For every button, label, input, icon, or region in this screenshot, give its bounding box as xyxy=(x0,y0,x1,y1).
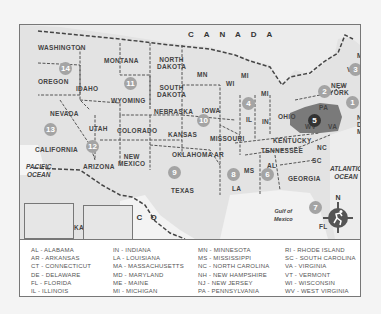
gulf-of-mexico-label: Gulf of Mexico xyxy=(274,207,293,223)
us-map: C A N A D A M E X I C O PACIFIC OCEAN AT… xyxy=(20,25,360,239)
legend-item: MD - MARYLAND xyxy=(113,271,184,279)
pacific-ocean-label: PACIFIC OCEAN xyxy=(26,163,52,179)
legend-item: AL - ALABAMA xyxy=(31,246,91,254)
region-number-badge: 2 xyxy=(318,85,331,98)
state-label: ARIZONA xyxy=(83,163,115,170)
state-label: MI xyxy=(241,72,249,79)
state-label: TEXAS xyxy=(171,187,194,194)
state-abbreviation-legend: AL - ALABAMA AR - ARKANSAS CT - CONNECTI… xyxy=(20,240,360,296)
region-number-badge: 8 xyxy=(227,168,240,181)
legend-column-3: MN - MINNESOTA MS - MISSISSIPPI NC - NOR… xyxy=(198,246,269,295)
state-label: IL xyxy=(246,116,252,123)
state-label: SOUTH DAKOTA xyxy=(157,84,186,98)
legend-column-4: RI - RHODE ISLAND SC - SOUTH CAROLINA VA… xyxy=(285,246,356,295)
legend-item: SC - SOUTH CAROLINA xyxy=(285,254,356,262)
state-label: LA xyxy=(232,185,241,192)
state-label: AR xyxy=(214,151,224,158)
region-number-badge: 5 xyxy=(308,114,321,127)
state-label: COLORADO xyxy=(117,127,157,134)
state-label: MONTANA xyxy=(104,57,139,64)
legend-item: WI - WISCONSIN xyxy=(285,279,356,287)
region-number-badge: 14 xyxy=(59,62,72,75)
legend-item: LA - LOUISIANA xyxy=(113,254,184,262)
state-label: MS xyxy=(244,167,254,174)
state-label: DE xyxy=(357,121,360,128)
legend-item: NH - NEW HAMPSHIRE xyxy=(198,271,269,279)
region-number-badge: 6 xyxy=(261,168,274,181)
region-number-badge: 10 xyxy=(197,114,210,127)
state-label: NEBRASKA xyxy=(154,108,193,115)
state-label: MISSOURI xyxy=(210,135,245,142)
alaska-inset xyxy=(24,203,74,239)
state-label: PA xyxy=(319,104,328,111)
legend-item: WV - WEST VIRGINIA xyxy=(285,287,356,295)
state-label: VA xyxy=(328,123,337,130)
legend-item: IL - ILLINOIS xyxy=(31,287,91,295)
legend-item: PA - PENNSYLVANIA xyxy=(198,287,269,295)
region-number-badge: 12 xyxy=(86,140,99,153)
hawaii-inset xyxy=(83,205,133,239)
legend-item: AR - ARKANSAS xyxy=(31,254,91,262)
legend-item: DE - DELAWARE xyxy=(31,271,91,279)
legend-item: RI - RHODE ISLAND xyxy=(285,246,356,254)
region-number-badge: 3 xyxy=(349,63,360,76)
legend-item: ME - MAINE xyxy=(113,279,184,287)
state-label: NEW MEXICO xyxy=(118,153,145,167)
state-label: MN xyxy=(197,71,208,78)
legend-item: CT - CONNECTICUT xyxy=(31,262,91,270)
state-label: OREGON xyxy=(38,78,69,85)
compass-north-label: N xyxy=(335,194,340,201)
legend-item: IN - INDIANA xyxy=(113,246,184,254)
map-frame: C A N A D A M E X I C O PACIFIC OCEAN AT… xyxy=(19,24,361,297)
legend-item: MS - MISSISSIPPI xyxy=(198,254,269,262)
region-number-badge: 13 xyxy=(44,123,57,136)
state-label: WASHINGTON xyxy=(38,44,86,51)
state-label: GEORGIA xyxy=(288,175,321,182)
legend-item: NC - NORTH CAROLINA xyxy=(198,262,269,270)
state-label: IN xyxy=(262,118,269,125)
state-label: KENTUCKY xyxy=(273,137,312,144)
legend-item: FL - FLORIDA xyxy=(31,279,91,287)
legend-item: VT - VERMONT xyxy=(285,271,356,279)
state-label: NJ xyxy=(357,114,360,121)
state-label: WI xyxy=(226,80,235,87)
state-label: MD xyxy=(357,128,360,135)
state-label: ME xyxy=(357,52,360,59)
legend-item: VA - VIRGINIA xyxy=(285,262,356,270)
state-label: TENNESSEE xyxy=(261,147,303,154)
state-label: CALIFORNIA xyxy=(35,146,78,153)
legend-item: NJ - NEW JERSEY xyxy=(198,279,269,287)
state-label: SC xyxy=(312,157,322,164)
legend-column-2: IN - INDIANA LA - LOUISIANA MA - MASSACH… xyxy=(113,246,184,295)
state-label: IDAHO xyxy=(76,85,98,92)
state-label: OKLAHOMA xyxy=(172,151,213,158)
legend-column-1: AL - ALABAMA AR - ARKANSAS CT - CONNECTI… xyxy=(31,246,91,295)
canada-label: C A N A D A xyxy=(188,30,276,39)
state-label: NC xyxy=(317,144,327,151)
region-number-badge: 11 xyxy=(124,77,137,90)
state-label: WYOMING xyxy=(111,97,146,104)
region-number-badge: 1 xyxy=(346,96,359,109)
state-label: OHIO xyxy=(278,113,296,120)
state-label: KANSAS xyxy=(168,131,197,138)
region-number-badge: 9 xyxy=(168,166,181,179)
state-label: MI xyxy=(261,90,269,97)
legend-item: MI - MICHIGAN xyxy=(113,287,184,295)
atlantic-ocean-label: ATLANTIC OCEAN xyxy=(330,165,360,181)
legend-item: MA - MASSACHUSETTS xyxy=(113,262,184,270)
compass-rose-icon: N xyxy=(320,193,356,235)
state-label: NORTH DAKOTA xyxy=(157,56,186,70)
state-label: IOWA xyxy=(202,107,221,114)
region-number-badge: 4 xyxy=(242,97,255,110)
state-label: NEVADA xyxy=(50,110,79,117)
state-label: NEW YORK xyxy=(329,82,349,96)
state-label: UTAH xyxy=(89,125,108,132)
legend-item: MN - MINNESOTA xyxy=(198,246,269,254)
